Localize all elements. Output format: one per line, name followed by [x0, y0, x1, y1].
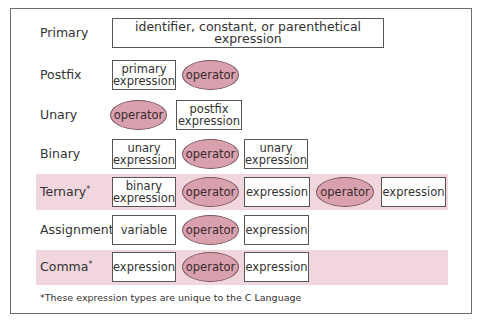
comma-highlight-band [36, 250, 448, 285]
row-label-primary: Primary [40, 26, 88, 40]
assignment-expression-box: expression [244, 215, 309, 245]
row-label-comma: Comma* [40, 260, 92, 274]
comma-operator-text: operator [186, 260, 235, 274]
comma-left-text: expression [113, 261, 175, 273]
binary-operator-text: operator [186, 147, 235, 161]
ternary-footnote-mark: * [86, 185, 90, 194]
binary-left-line2: expression [113, 154, 175, 166]
assignment-operator-oval: operator [182, 215, 239, 245]
postfix-operator-oval: operator [182, 60, 239, 90]
comma-left-expression-box: expression [112, 252, 176, 282]
ternary-operator1-text: operator [186, 185, 235, 199]
comma-label-text: Comma [40, 259, 88, 274]
comma-footnote-mark: * [88, 260, 92, 269]
ternary-label-text: Ternary [40, 184, 86, 199]
binary-right-operand-box: unary expression [244, 139, 308, 169]
assignment-variable-box: variable [112, 215, 176, 245]
ternary-true-expression-box: expression [244, 177, 310, 207]
ternary-condition-box: binary expression [112, 177, 176, 207]
comma-right-text: expression [245, 261, 307, 273]
primary-expression-box: identifier, constant, or parenthetical e… [112, 18, 384, 48]
postfix-operand-box: primary expression [112, 60, 176, 90]
row-label-unary: Unary [40, 108, 77, 122]
postfix-operand-line2: expression [113, 75, 175, 87]
row-label-assignment: Assignment [40, 223, 114, 237]
ternary-condition-line2: expression [113, 192, 175, 204]
row-label-binary: Binary [40, 147, 80, 161]
footnote: *These expression types are unique to th… [40, 292, 301, 303]
postfix-operator-text: operator [186, 68, 235, 82]
assignment-operator-text: operator [186, 223, 235, 237]
ternary-operator1-oval: operator [182, 177, 239, 207]
ternary-false-expression-box: expression [381, 177, 446, 207]
primary-box-text: identifier, constant, or parenthetical e… [113, 21, 383, 45]
unary-operand-line2: expression [178, 115, 240, 127]
unary-operator-oval: operator [110, 100, 167, 130]
unary-operand-box: postfix expression [176, 100, 242, 130]
binary-right-line2: expression [245, 154, 307, 166]
ternary-operator2-text: operator [320, 185, 369, 199]
binary-left-operand-box: unary expression [112, 139, 176, 169]
ternary-operator2-oval: operator [316, 177, 374, 207]
binary-operator-oval: operator [182, 139, 239, 169]
assignment-expression-text: expression [245, 224, 307, 236]
assignment-variable-text: variable [121, 224, 167, 236]
row-label-postfix: Postfix [40, 68, 81, 82]
comma-operator-oval: operator [182, 252, 239, 282]
ternary-true-text: expression [246, 186, 308, 198]
row-label-ternary: Ternary* [40, 185, 90, 199]
ternary-false-text: expression [382, 186, 444, 198]
unary-operator-text: operator [114, 108, 163, 122]
comma-right-expression-box: expression [244, 252, 309, 282]
